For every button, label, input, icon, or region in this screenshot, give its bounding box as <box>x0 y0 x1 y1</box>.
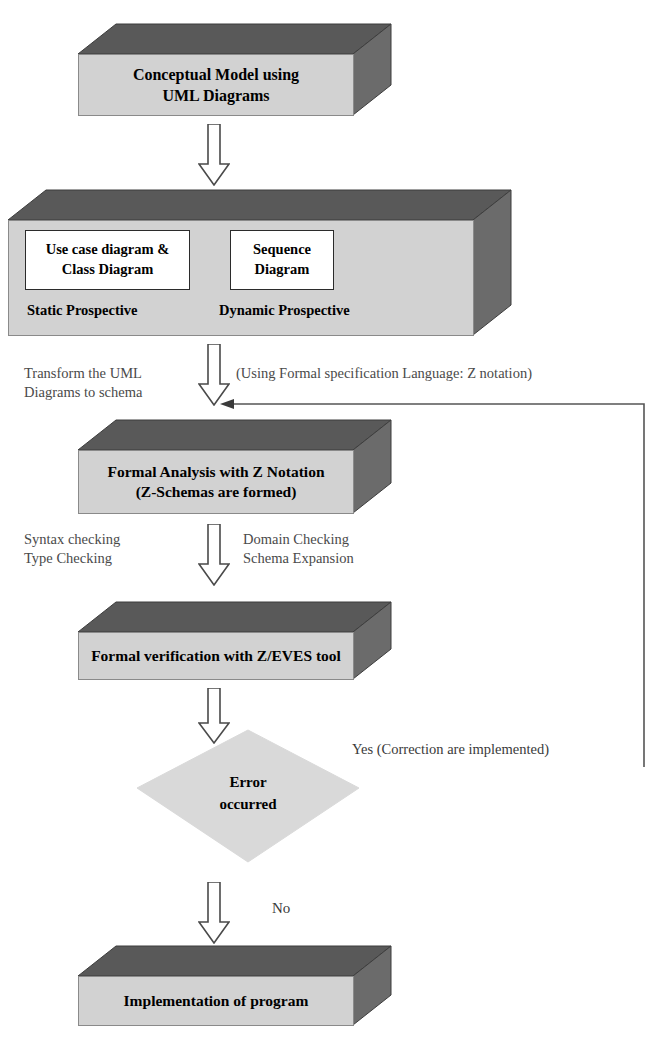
node-error-decision-line1: Error <box>133 772 363 792</box>
subbox-static-line2: Class Diagram <box>62 260 153 280</box>
label-no-branch: No <box>272 898 290 918</box>
node-implementation-face: Implementation of program <box>78 976 354 1026</box>
note-checking-left: Syntax checking Type Checking <box>24 530 120 569</box>
subbox-dynamic-line1: Sequence <box>253 240 311 260</box>
note-formal-language: (Using Formal specification Language: Z … <box>236 364 532 383</box>
node-conceptual-model-line2: UML Diagrams <box>162 85 269 106</box>
node-conceptual-model-face: Conceptual Model using UML Diagrams <box>78 54 354 116</box>
node-formal-analysis[interactable]: Formal Analysis with Z Notation (Z-Schem… <box>78 418 392 516</box>
subbox-static-perspective[interactable]: Use case diagram & Class Diagram <box>25 230 190 290</box>
arrow-formal-analysis-to-verification <box>198 524 230 586</box>
arrow-decision-to-implementation <box>198 882 230 944</box>
caption-static-prospective: Static Prospective <box>27 301 137 320</box>
node-formal-verification[interactable]: Formal verification with Z/EVES tool <box>78 600 392 682</box>
subbox-dynamic-line2: Diagram <box>255 260 310 280</box>
note-checking-right: Domain Checking Schema Expansion <box>243 530 354 569</box>
node-error-decision-line2: occurred <box>133 794 363 814</box>
flowchart-canvas: Conceptual Model using UML Diagrams Use … <box>0 0 670 1047</box>
node-conceptual-model-line1: Conceptual Model using <box>133 64 299 85</box>
node-formal-analysis-line2: (Z-Schemas are formed) <box>136 482 297 502</box>
node-error-decision[interactable]: Error occurred <box>133 726 363 866</box>
node-implementation[interactable]: Implementation of program <box>78 944 392 1028</box>
node-formal-analysis-face: Formal Analysis with Z Notation (Z-Schem… <box>78 450 354 514</box>
node-perspectives[interactable]: Use case diagram & Class Diagram Sequenc… <box>8 188 512 338</box>
node-conceptual-model[interactable]: Conceptual Model using UML Diagrams <box>78 22 392 118</box>
node-formal-verification-face: Formal verification with Z/EVES tool <box>78 632 354 680</box>
subbox-static-line1: Use case diagram & <box>46 240 170 260</box>
subbox-dynamic-perspective[interactable]: Sequence Diagram <box>230 230 334 290</box>
arrow-conceptual-to-perspectives <box>198 124 230 186</box>
caption-dynamic-prospective: Dynamic Prospective <box>219 301 350 320</box>
node-formal-analysis-line1: Formal Analysis with Z Notation <box>107 462 324 482</box>
label-yes-branch: Yes (Correction are implemented) <box>352 740 549 759</box>
node-implementation-line1: Implementation of program <box>124 991 309 1011</box>
note-transform-uml: Transform the UML Diagrams to schema <box>24 364 142 403</box>
node-perspectives-face: Use case diagram & Class Diagram Sequenc… <box>8 220 474 336</box>
node-formal-verification-line1: Formal verification with Z/EVES tool <box>91 646 341 666</box>
